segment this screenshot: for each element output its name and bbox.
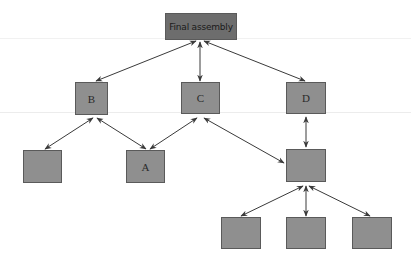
node-c: C <box>181 82 220 114</box>
node-label: B <box>88 93 95 105</box>
edge-b-a <box>97 118 146 149</box>
edge-root-b <box>96 41 196 81</box>
edge-e-e1 <box>241 186 303 216</box>
edge-c-e <box>204 118 284 163</box>
node-label: D <box>302 92 310 104</box>
node-d: D <box>286 82 326 114</box>
node-e-child-1 <box>221 217 261 249</box>
edge-b-b1 <box>45 118 93 149</box>
node-b-child <box>23 150 62 183</box>
edge-root-d <box>204 41 305 81</box>
edge-e-e3 <box>309 186 370 216</box>
node-label: Final assembly <box>169 22 233 32</box>
node-label: A <box>142 161 150 173</box>
node-e-child-2 <box>286 217 326 249</box>
node-final-assembly: Final assembly <box>165 13 237 40</box>
node-a: A <box>126 150 165 183</box>
node-e <box>286 149 326 182</box>
node-e-child-3 <box>352 217 392 249</box>
node-label: C <box>197 92 204 104</box>
node-b: B <box>75 82 108 115</box>
edge-c-a <box>150 118 197 149</box>
